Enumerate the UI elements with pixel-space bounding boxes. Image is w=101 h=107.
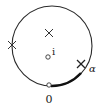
cross-icon-pole-alpha xyxy=(77,60,85,68)
label-i: i xyxy=(52,46,55,57)
label-alpha: α xyxy=(89,63,96,74)
contour-diagram: i 0 α xyxy=(0,0,101,107)
label-zero: 0 xyxy=(46,93,53,106)
highlighted-arc xyxy=(51,73,81,86)
point-i-marker xyxy=(46,55,50,59)
cross-icon-pole-top xyxy=(45,29,53,37)
point-zero-marker xyxy=(47,83,51,87)
